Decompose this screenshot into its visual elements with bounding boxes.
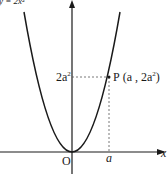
x-tick-label: a: [106, 151, 112, 165]
curve-equation-label: y = 2x²: [0, 0, 25, 6]
point-p-marker: [108, 76, 111, 79]
origin-label: O: [62, 154, 71, 168]
y-tick-label: 2a2: [56, 70, 71, 84]
parabola-diagram: y = 2x² 2a2 P(a , 2a2) O a x: [0, 0, 167, 174]
y-axis-arrow-icon: [69, 0, 75, 8]
point-p-label: P(a , 2a2): [113, 70, 160, 84]
x-axis-label: x: [160, 146, 167, 160]
